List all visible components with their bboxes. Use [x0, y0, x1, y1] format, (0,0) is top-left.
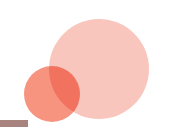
venn-diagram-svg	[0, 0, 172, 137]
venn-diagram-canvas	[0, 0, 172, 137]
baseline-bar	[0, 120, 28, 127]
venn-circle-small	[24, 66, 80, 122]
